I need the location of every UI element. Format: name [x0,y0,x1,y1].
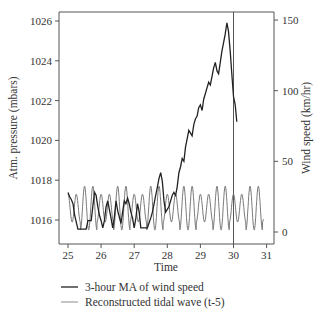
legend-item-wind: 3-hour MA of wind speed [61,281,204,294]
left-y-tick-label: 1026 [30,15,53,27]
legend-label-wind: 3-hour MA of wind speed [85,281,204,294]
left-y-tick-label: 1022 [30,95,52,107]
left-y-tick-label: 1020 [30,134,53,146]
x-tick-label: 31 [261,249,272,261]
x-tick-label: 30 [228,249,240,261]
x-axis-title: Time [154,261,178,273]
left-y-tick-label: 1016 [30,214,53,226]
x-tick-label: 27 [129,249,141,261]
x-tick-label: 29 [195,249,207,261]
legend-label-tidal: Reconstructed tidal wave (t-5) [85,296,225,309]
x-axis-ticks: 25262728293031 [63,244,273,261]
left-y-axis-ticks: 101610181020102210241026 [30,15,59,226]
x-tick-label: 25 [63,249,75,261]
left-y-tick-label: 1024 [30,55,53,67]
legend-item-tidal: Reconstructed tidal wave (t-5) [61,296,225,309]
right-y-axis-title: Wind speed (km/hr) [300,82,313,174]
right-y-tick-label: 0 [282,226,288,238]
right-y-tick-label: 100 [282,85,299,97]
chart-canvas: 25262728293031 101610181020102210241026 … [0,0,327,320]
left-y-tick-label: 1018 [30,174,53,186]
right-y-tick-label: 150 [282,14,299,26]
plot-frame [59,12,274,244]
right-y-axis-ticks: 050100150 [274,14,299,238]
left-y-axis-title: Atm. pressure (mbars) [7,76,20,179]
x-tick-label: 26 [96,249,108,261]
legend: 3-hour MA of wind speed Reconstructed ti… [61,281,225,309]
x-tick-label: 28 [162,249,174,261]
right-y-tick-label: 50 [282,155,294,167]
